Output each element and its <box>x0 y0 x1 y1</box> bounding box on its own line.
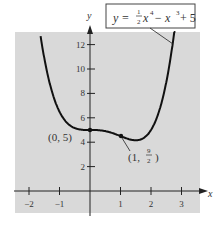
y-tick-label: 12 <box>76 40 85 50</box>
y-axis-arrow-icon <box>87 25 93 34</box>
svg-text:(1,: (1, <box>128 151 140 164</box>
y-tick-label: 2 <box>81 162 86 172</box>
point-label-0-5: (0, 5) <box>48 131 72 144</box>
svg-text:): ) <box>155 151 159 164</box>
y-axis-label: y <box>86 10 92 21</box>
y-tick-label: 6 <box>81 113 86 123</box>
x-tick-label: 3 <box>179 199 184 209</box>
x-tick-label: −2 <box>24 199 34 209</box>
point-1-4.5 <box>119 134 123 138</box>
svg-text:x: x <box>142 11 149 25</box>
x-tick-label: 2 <box>149 199 154 209</box>
plot-area <box>15 32 200 213</box>
function-graph: −2−1123 24681012 y x y = 1 2 x 4 − x 3 +… <box>0 0 224 226</box>
y-tick-label: 4 <box>81 137 86 147</box>
y-tick-label: 8 <box>81 88 86 98</box>
y-tick-label: 10 <box>76 64 86 74</box>
svg-text:− x: − x <box>154 11 171 25</box>
x-tick-label: 1 <box>118 199 123 209</box>
svg-text:2: 2 <box>137 18 141 26</box>
svg-text:9: 9 <box>147 147 151 155</box>
point-0-5 <box>88 128 92 132</box>
x-axis-arrow-icon <box>199 188 208 194</box>
svg-text:+ 5: + 5 <box>180 11 196 25</box>
svg-text:1: 1 <box>137 8 141 16</box>
svg-text:2: 2 <box>147 157 151 165</box>
x-axis-label: x <box>207 188 213 199</box>
svg-text:y =: y = <box>112 11 129 25</box>
x-tick-label: −1 <box>55 199 65 209</box>
